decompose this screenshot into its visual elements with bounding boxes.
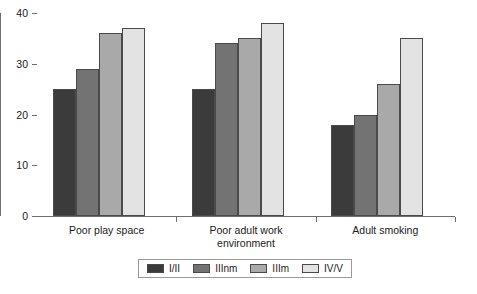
legend-swatch-icon xyxy=(250,264,267,273)
bar-IIIm-2 xyxy=(377,84,400,216)
bar-IIInm-2 xyxy=(354,115,377,217)
category-label: Poor adult work environment xyxy=(176,224,315,250)
bar-group xyxy=(192,13,284,216)
legend-label: IV/V xyxy=(324,264,343,274)
category-label: Adult smoking xyxy=(316,224,455,237)
x-tick-mark xyxy=(316,217,317,222)
x-axis-line xyxy=(37,216,455,217)
legend-label: I/II xyxy=(169,264,180,274)
legend-entry: I/II xyxy=(147,264,180,274)
y-tick-label: 20 xyxy=(16,110,28,121)
bar-I-II-2 xyxy=(331,125,354,216)
bar-IIInm-1 xyxy=(215,43,238,216)
bar-IIInm-0 xyxy=(76,69,99,216)
y-axis-line xyxy=(0,13,1,216)
x-tick-mark xyxy=(455,217,456,222)
legend-swatch-icon xyxy=(147,264,164,273)
bar-IV-V-0 xyxy=(122,28,145,216)
bar-chart: 010203040 Poor play spacePoor adult work… xyxy=(0,0,477,294)
y-tick-label: 40 xyxy=(16,8,28,19)
legend-entry: IV/V xyxy=(302,264,343,274)
bar-IIIm-1 xyxy=(238,38,261,216)
y-tick-label: 10 xyxy=(16,160,28,171)
y-axis-labels: 010203040 xyxy=(0,0,28,294)
plot-area xyxy=(37,13,455,216)
legend-label: IIInm xyxy=(215,264,237,274)
bar-IV-V-2 xyxy=(400,38,423,216)
category-label: Poor play space xyxy=(37,224,176,237)
y-tick-mark xyxy=(32,216,37,217)
legend-label: IIIm xyxy=(272,264,289,274)
bar-IIIm-0 xyxy=(99,33,122,216)
bar-I-II-0 xyxy=(53,89,76,216)
bar-IV-V-1 xyxy=(261,23,284,216)
x-tick-mark xyxy=(176,217,177,222)
bar-I-II-1 xyxy=(192,89,215,216)
legend-swatch-icon xyxy=(193,264,210,273)
chart-legend: I/IIIIInmIIImIV/V xyxy=(138,259,352,278)
bar-group xyxy=(53,13,145,216)
legend-entry: IIIm xyxy=(250,264,289,274)
legend-swatch-icon xyxy=(302,264,319,273)
y-tick-label: 30 xyxy=(16,59,28,70)
legend-entry: IIInm xyxy=(193,264,237,274)
y-tick-label: 0 xyxy=(22,211,28,222)
bar-group xyxy=(331,13,423,216)
